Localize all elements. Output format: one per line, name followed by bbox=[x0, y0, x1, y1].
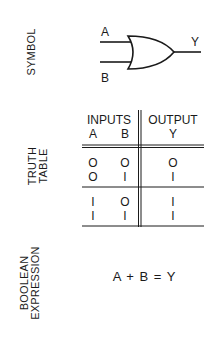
cell-a: I bbox=[86, 196, 100, 208]
cell-y: O bbox=[166, 157, 180, 169]
cell-b: I bbox=[118, 210, 132, 222]
column-header-y: Y bbox=[166, 128, 180, 140]
gate-input-b-label: B bbox=[100, 72, 110, 84]
diagram-lines bbox=[0, 0, 213, 345]
cell-a: O bbox=[86, 157, 100, 169]
column-header-b: B bbox=[118, 128, 132, 140]
output-group-header: OUTPUT bbox=[145, 114, 201, 126]
gate-output-y-label: Y bbox=[190, 36, 200, 48]
cell-y: I bbox=[166, 196, 180, 208]
cell-a: I bbox=[86, 210, 100, 222]
or-gate-body bbox=[128, 36, 174, 69]
inputs-group-header: INPUTS bbox=[83, 114, 135, 126]
cell-a: O bbox=[86, 171, 100, 183]
gate-input-a-label: A bbox=[100, 26, 110, 38]
boolean-expression: A + B = Y bbox=[104, 271, 184, 283]
truth-table-lines bbox=[82, 110, 204, 227]
cell-y: I bbox=[166, 171, 180, 183]
cell-b: O bbox=[118, 196, 132, 208]
column-header-a: A bbox=[86, 128, 100, 140]
cell-b: I bbox=[118, 171, 132, 183]
cell-b: O bbox=[118, 157, 132, 169]
or-gate-symbol bbox=[100, 36, 201, 69]
cell-y: I bbox=[166, 210, 180, 222]
